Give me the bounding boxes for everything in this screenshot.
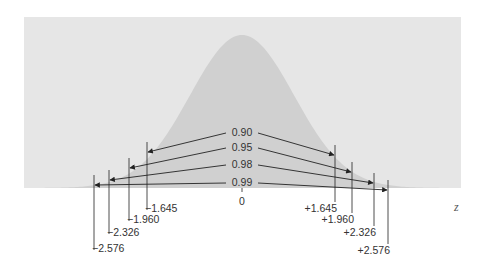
confidence-label: 0.98 [232, 158, 253, 170]
z-axis-label: z [453, 200, 459, 214]
upper-bound-label: +2.326 [344, 226, 377, 238]
normal-distribution-diagram: 0.90−1.645+1.6450.95−1.960+1.9600.98−2.3… [0, 0, 478, 271]
upper-bound-label: +1.960 [322, 213, 355, 225]
lower-bound-label: −2.576 [92, 242, 125, 254]
lower-bound-label: −1.960 [127, 213, 160, 225]
upper-bound-label: +2.576 [358, 244, 391, 256]
confidence-label: 0.90 [232, 126, 253, 138]
zero-label: 0 [239, 195, 245, 207]
lower-bound-label: −2.326 [107, 226, 140, 238]
confidence-label: 0.99 [232, 176, 253, 188]
confidence-label: 0.95 [232, 141, 253, 153]
